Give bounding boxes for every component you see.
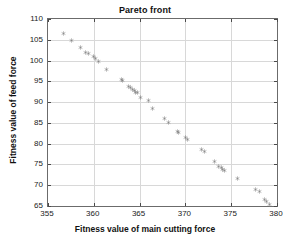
y-tick-label: 80 (21, 138, 43, 147)
scatter-point (162, 116, 167, 121)
scatter-point (126, 84, 131, 89)
tick-mark-x (185, 203, 186, 206)
scatter-point (61, 31, 66, 36)
tick-mark-y (274, 206, 277, 207)
x-tick-label: 355 (40, 209, 53, 218)
gridline-horizontal (48, 144, 277, 145)
y-tick-label: 65 (21, 201, 43, 210)
scatter-point (262, 197, 267, 202)
tick-mark-x (185, 19, 186, 22)
scatter-point (199, 147, 204, 152)
chart-title: Pareto front (0, 5, 290, 15)
tick-mark-x (231, 203, 232, 206)
tick-mark-y (48, 61, 51, 62)
tick-mark-x (94, 203, 95, 206)
y-axis-label: Fitness value of feed force (8, 45, 18, 175)
gridline-horizontal (48, 164, 277, 165)
tick-mark-x (140, 203, 141, 206)
tick-mark-x (277, 203, 278, 206)
x-axis-label: Fitness value of main cutting force (0, 224, 290, 234)
y-tick-label: 70 (21, 180, 43, 189)
tick-mark-y (274, 164, 277, 165)
gridline-horizontal (48, 185, 277, 186)
gridline-horizontal (48, 61, 277, 62)
scatter-point (128, 85, 133, 90)
tick-mark-y (48, 19, 51, 20)
scatter-point (86, 51, 91, 56)
scatter-point (78, 45, 83, 50)
gridline-vertical (231, 19, 232, 206)
tick-mark-y (274, 102, 277, 103)
gridline-vertical (94, 19, 95, 206)
tick-mark-y (48, 206, 51, 207)
tick-mark-y (48, 144, 51, 145)
gridline-horizontal (48, 40, 277, 41)
scatter-point (150, 106, 155, 111)
tick-mark-y (48, 123, 51, 124)
tick-mark-y (48, 185, 51, 186)
tick-mark-y (274, 185, 277, 186)
gridline-horizontal (48, 102, 277, 103)
tick-mark-x (277, 19, 278, 22)
scatter-point (212, 159, 217, 164)
tick-mark-y (48, 164, 51, 165)
tick-mark-y (48, 40, 51, 41)
scatter-point (220, 167, 225, 172)
scatter-point (104, 67, 109, 72)
tick-mark-y (274, 81, 277, 82)
scatter-point (257, 189, 262, 194)
tick-mark-y (274, 123, 277, 124)
y-tick-label: 105 (21, 34, 43, 43)
scatter-point (132, 88, 137, 93)
tick-mark-y (274, 61, 277, 62)
tick-mark-y (48, 81, 51, 82)
scatter-point (175, 129, 180, 134)
scatter-point (83, 50, 88, 55)
y-tick-label: 95 (21, 76, 43, 85)
y-tick-label: 110 (21, 14, 43, 23)
gridline-horizontal (48, 123, 277, 124)
scatter-point (264, 199, 269, 204)
scatter-point (253, 187, 258, 192)
scatter-point (176, 130, 181, 135)
scatter-point (219, 165, 224, 170)
scatter-point (130, 87, 135, 92)
gridline-vertical (140, 19, 141, 206)
y-tick-label: 75 (21, 159, 43, 168)
tick-mark-y (274, 40, 277, 41)
scatter-point (202, 149, 207, 154)
y-tick-label: 100 (21, 55, 43, 64)
tick-mark-x (231, 19, 232, 22)
tick-mark-y (274, 19, 277, 20)
gridline-vertical (185, 19, 186, 206)
x-tick-label: 375 (224, 209, 237, 218)
gridline-horizontal (48, 81, 277, 82)
x-tick-label: 380 (269, 209, 282, 218)
tick-mark-x (94, 19, 95, 22)
x-tick-label: 360 (86, 209, 99, 218)
y-tick-label: 85 (21, 117, 43, 126)
x-tick-label: 365 (132, 209, 145, 218)
scatter-point (133, 90, 138, 95)
y-tick-label: 90 (21, 97, 43, 106)
plot-area (47, 18, 278, 207)
scatter-point (235, 176, 240, 181)
tick-mark-x (140, 19, 141, 22)
x-tick-label: 370 (178, 209, 191, 218)
tick-mark-y (48, 102, 51, 103)
pareto-front-chart: Pareto front 355360365370375380 65707580… (0, 0, 290, 244)
scatter-point (267, 202, 272, 207)
tick-mark-y (274, 144, 277, 145)
scatter-point (222, 168, 227, 173)
